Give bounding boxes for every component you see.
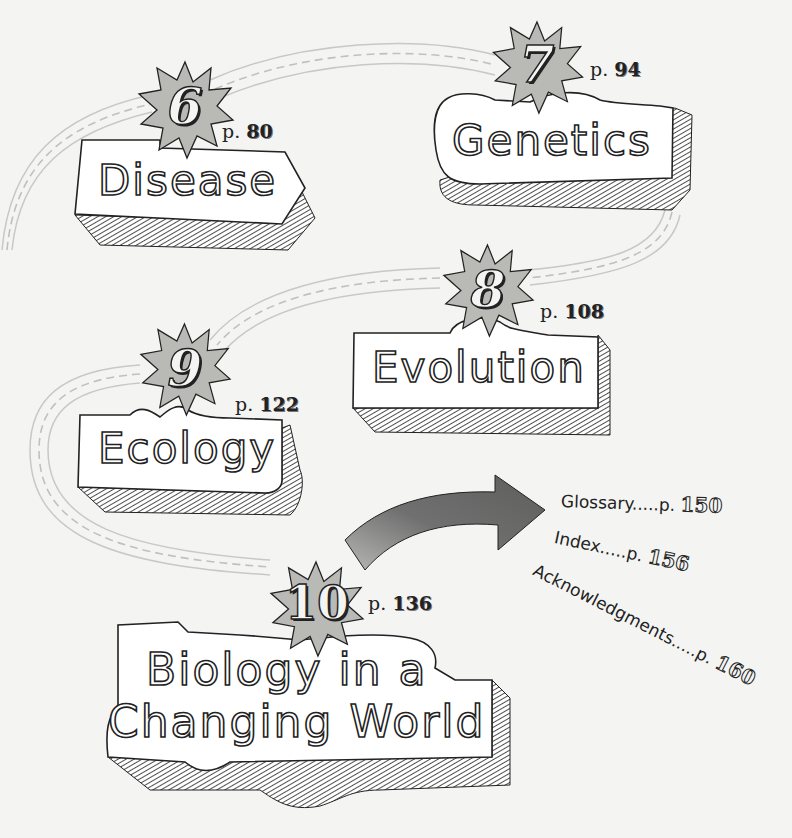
back-matter-list: Glossary.....p. 150 Index.....p. 156 Ack… xyxy=(515,486,785,706)
acknowledgments-link[interactable]: Acknowledgments.....p. 160 xyxy=(530,557,760,690)
glossary-link[interactable]: Glossary.....p. 150 xyxy=(561,488,723,518)
contents-page: 6 p. 80 Disease 7 p. 94 Genetics 8 xyxy=(0,0,792,838)
curved-arrow-icon xyxy=(0,0,792,838)
index-link[interactable]: Index.....p. 156 xyxy=(553,524,692,576)
